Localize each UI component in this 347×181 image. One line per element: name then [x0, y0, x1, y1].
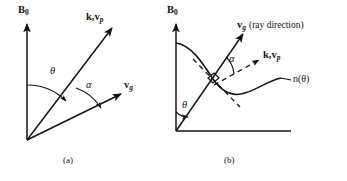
panel-a-k-vp-subscript: p — [100, 15, 104, 24]
panel-b-k-vp-main: k,v — [263, 49, 277, 60]
panel-a-alpha-label: α — [86, 80, 92, 91]
panel-a-b0-letter: B — [18, 4, 25, 15]
panel-a-k-vp-label: k,vp — [86, 12, 103, 23]
panel-a-caption: (a) — [63, 156, 73, 165]
panel-a-vg-label: vg — [124, 80, 133, 91]
panel-b-vg-note: (ray direction) — [249, 20, 304, 30]
panel-a-k-vp-main: k,v — [86, 11, 100, 22]
panel-b-b0-letter: B — [167, 4, 174, 15]
panel-b-k-vp-label: k,vp — [263, 50, 280, 61]
panel-b-alpha-label: α — [229, 54, 235, 65]
panel-a-theta-label: θ — [50, 66, 55, 77]
panel-b-vg-label: vg(ray direction) — [237, 15, 304, 31]
panel-a-graphics — [27, 24, 121, 140]
panel-b-k-vp-subscript: p — [277, 53, 281, 62]
panel-b-caption: (b) — [224, 156, 235, 165]
panel-b-theta-label: θ — [182, 100, 187, 111]
panel-b-b0-subscript: 0 — [174, 8, 178, 17]
panel-b-n-theta-leader — [281, 78, 291, 80]
panel-b-b0-label: B0 — [167, 5, 178, 16]
panel-b-curve-label: n(θ) — [293, 74, 309, 84]
panel-a-vector-vg — [27, 94, 121, 140]
panel-a-theta-arc — [27, 85, 66, 101]
panel-b-graphics — [176, 24, 291, 131]
figure-container: B0 k,vp vg θ α (a) B0 vg(ray direction) … — [0, 0, 347, 181]
panel-b-vector-k-vp — [214, 60, 259, 85]
panel-a-b0-subscript: 0 — [25, 8, 29, 17]
panel-b-vg-subscript: g — [242, 23, 246, 32]
panel-a-vector-k-vp — [27, 28, 112, 140]
panel-a-b0-label: B0 — [18, 5, 29, 16]
panel-a-vg-subscript: g — [129, 83, 133, 92]
